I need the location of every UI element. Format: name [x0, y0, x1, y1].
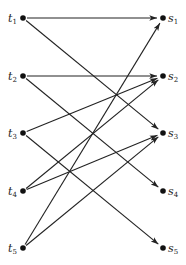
- node-label-t2: t2: [8, 70, 17, 84]
- edge-t4-s3: [27, 135, 158, 189]
- edge-t3-s5: [26, 136, 158, 245]
- node-label-s2: s2: [168, 70, 178, 84]
- node-label-t5: t5: [8, 242, 17, 256]
- node-label-t4: t4: [8, 185, 17, 199]
- node-s2: [160, 73, 166, 79]
- edge-t5-s3: [26, 137, 158, 246]
- node-t1: [20, 15, 26, 21]
- edges-group: [25, 18, 160, 245]
- node-t2: [20, 73, 26, 79]
- node-s5: [160, 245, 166, 251]
- edge-t1-s3: [26, 21, 158, 130]
- node-label-s4: s4: [168, 185, 179, 199]
- node-s1: [160, 15, 166, 21]
- edge-t5-s1: [25, 23, 160, 244]
- node-t3: [20, 130, 26, 136]
- edge-t2-s4: [26, 79, 158, 188]
- bipartite-graph: t1t2t3t4t5s1s2s3s4s5: [0, 0, 186, 265]
- node-t5: [20, 245, 26, 251]
- node-label-t1: t1: [8, 12, 17, 26]
- node-t4: [20, 188, 26, 194]
- node-label-t3: t3: [8, 127, 17, 141]
- edge-t3-s2: [27, 78, 158, 131]
- node-label-s1: s1: [168, 12, 178, 26]
- node-s4: [160, 188, 166, 194]
- node-label-s3: s3: [168, 127, 178, 141]
- node-label-s5: s5: [168, 242, 178, 256]
- node-s3: [160, 130, 166, 136]
